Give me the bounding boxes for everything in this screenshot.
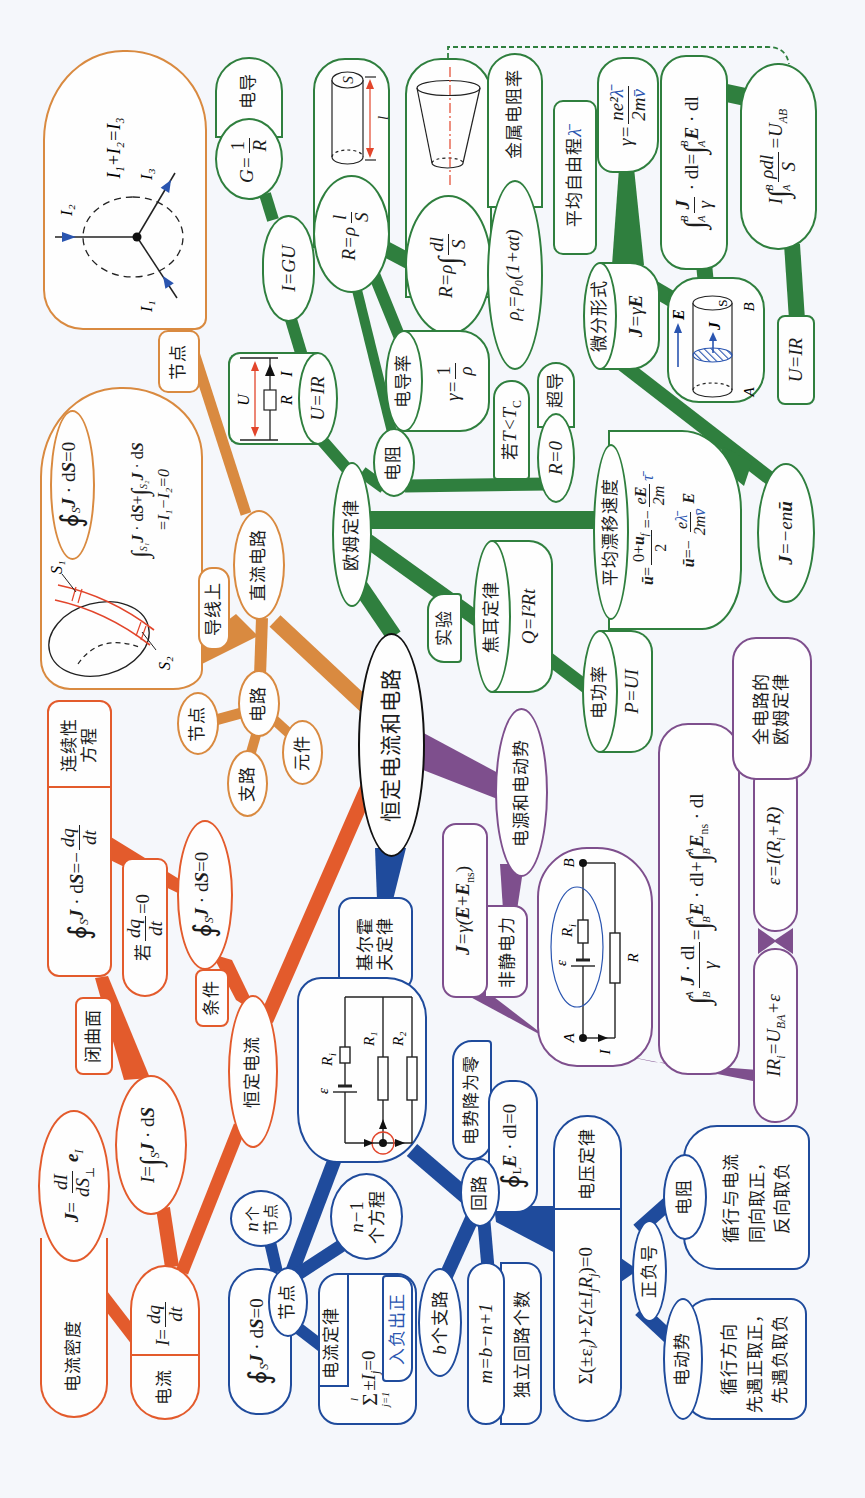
current-flux-formula: I=∫SJ · dS (135, 1107, 168, 1183)
emf-sign-line1: 循行方向 (717, 1323, 743, 1395)
numerator-text: e (632, 497, 649, 504)
denominator: ρ (456, 363, 477, 378)
closed-integral-sign: ∮ (65, 925, 96, 940)
u-subscript: BA (775, 1015, 788, 1029)
vector-e: E (625, 295, 646, 308)
uir-small-formula: U=IR (785, 338, 807, 382)
denominator: 2 (652, 541, 669, 555)
ir-lhs: IR (763, 1059, 784, 1077)
denominator: S (449, 237, 470, 253)
vector-s: S (58, 462, 79, 473)
vector-e-ns: E (452, 883, 473, 896)
ri-subscript: i (775, 837, 788, 840)
unit-vector-subscript: I (73, 1150, 86, 1154)
denominator-text: 2m (691, 516, 708, 536)
experiment-tag: 实验 (427, 593, 462, 663)
on-wire-label: 导线上 (204, 582, 224, 636)
voltage-law-label: 电压定律 (578, 1117, 598, 1211)
ohm-law-label: 欧姆定律 (342, 499, 362, 571)
vector-j: J (67, 909, 88, 919)
symbol-i: I (152, 1340, 173, 1346)
emf-equation-formula: ε=I(Ri+R) (763, 807, 788, 886)
lower-limit: B (702, 916, 712, 922)
potential-difference-formula: I∫BAρdlS=UAB (757, 109, 799, 204)
fraction: 1ρ (434, 363, 476, 379)
emf-equation-node: ε=I(Ri+R) (753, 760, 798, 932)
internal-drop-formula: IRi=UBA+ε (763, 994, 788, 1076)
sign-convention-label: 正负号 (640, 1244, 660, 1298)
ri-subscript: i (775, 1056, 788, 1059)
equals-u: =U (763, 1029, 784, 1056)
drift-current-density-formula: J=−enū (775, 501, 797, 565)
superconduct-condition: 若T<TC (499, 400, 524, 460)
vector-s: S (129, 505, 146, 514)
upper-limit: B (680, 141, 690, 147)
fraction: dqdt (124, 916, 166, 941)
lower-limit: A (782, 185, 792, 191)
integral-limits: BA (680, 216, 707, 222)
symbol-j: J (61, 1213, 82, 1223)
integral-subscript: S (258, 1364, 271, 1370)
emf-sign-line3: 先遇负取负 (768, 1314, 794, 1404)
current-label: 电流 (155, 1356, 175, 1418)
fraction: dIdS⊥ (51, 1164, 97, 1200)
denominator: 2mv̄ (691, 506, 708, 539)
full-circuit-ohm-node: 全电路的欧姆定律 (732, 637, 812, 780)
numerator-text: 0+ (630, 545, 647, 562)
perpendicular-subscript: ⊥ (83, 1167, 96, 1178)
upper-limit: B (765, 185, 775, 191)
upper-limit: A (685, 916, 695, 922)
numerator: dI (51, 1171, 73, 1193)
integral-sign: ∫ (434, 257, 465, 265)
current-sum: )+Σ(±I (575, 1292, 596, 1346)
fraction: ne²λ̄2mv̄ (607, 86, 649, 124)
vector-j: J (452, 946, 473, 956)
metal-resistivity-label: 金属电阻率 (505, 69, 525, 159)
igu-formula: I=GU (278, 245, 300, 292)
closed-integral-sign: ∮ (56, 513, 87, 528)
equals-zero: )=0 (575, 1247, 596, 1274)
ns-subscript: ns (698, 824, 711, 834)
equation-count-node: n−1个方程 (330, 1173, 403, 1260)
fraction: 1R (228, 137, 270, 155)
fraction: lS (330, 209, 372, 225)
signed-current: ±I (358, 1374, 379, 1391)
loop-node: 回路 (460, 1158, 500, 1227)
continuity-formula: ∮SJ · dS=−dqdt (58, 788, 100, 975)
ohm-law-node: 欧姆定律 (332, 462, 372, 607)
current-subscript: j (369, 1371, 382, 1374)
vector-e: E (681, 127, 702, 140)
circuit-part-branch-label: 支路 (238, 766, 258, 802)
summation: lΣj=1 (350, 1392, 391, 1407)
if-steady-node: 若dqdt=0 (122, 858, 168, 997)
zero-drop-tag: 电势降为零 (452, 1040, 492, 1160)
circuit-node: 电路 (238, 670, 280, 737)
integral-sign: ∫ (135, 1158, 166, 1166)
denominator: dt (146, 918, 167, 939)
fraction: Jγ (673, 197, 715, 213)
branch-count-node: b个支路 (418, 1268, 462, 1377)
divider (320, 1385, 347, 1387)
integral-subscript: S₁ (138, 543, 149, 551)
differential-form-label: 微分形式 (590, 280, 610, 352)
dc-circuit-node: 直流电路 (233, 510, 285, 620)
sign-rule-box: 入负出正 (382, 1275, 413, 1382)
conductivity-lhs: γ= (442, 381, 463, 401)
full-circuit-ohm-line1: 全电路的 (752, 673, 772, 745)
denominator: dt (80, 827, 101, 848)
emf-node: 电源和电动势 (495, 708, 548, 877)
equals-sign: = (137, 1166, 158, 1177)
electric-power-label: 电功率 (590, 665, 610, 719)
nonelectrostatic-formula-node: J=γ(E+Ens) (442, 823, 488, 998)
dot-dl: · dl (686, 793, 707, 824)
conductance-lhs: G= (236, 157, 257, 184)
voltage-law-formula: Σ(±εi)+Σ(±IjRj)=0 (575, 1211, 600, 1420)
circuit-part-node-label: 节点 (188, 706, 208, 742)
equals-sign: = (61, 1202, 82, 1213)
conductance-formula: G=1R (228, 135, 270, 183)
mean-velocity: ū (639, 576, 656, 585)
divider (49, 786, 110, 788)
dot-operator: · d (137, 1118, 158, 1143)
sign-rule-label: 入负出正 (388, 1293, 408, 1365)
equals-sign: = (639, 567, 656, 576)
